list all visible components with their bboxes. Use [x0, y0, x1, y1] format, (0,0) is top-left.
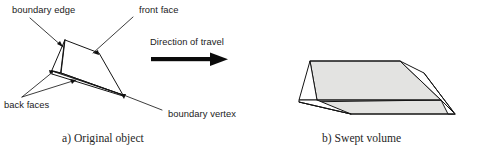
panel-a-original-object: boundary edge front face back faces boun…: [4, 4, 236, 145]
label-back-faces: back faces: [4, 99, 50, 110]
label-boundary-vertex: boundary vertex: [168, 108, 236, 119]
back-face-lower: [52, 71, 123, 95]
back-faces-leader-upper: [22, 71, 54, 97]
caption-panel-a: a) Original object: [62, 132, 145, 145]
label-direction-of-travel: Direction of travel: [150, 36, 224, 47]
back-faces-leader-lower: [22, 80, 76, 97]
boundary-vertex-arrowhead: [121, 94, 126, 99]
back-face-upper: [52, 40, 65, 73]
figure-svg: boundary edge front face back faces boun…: [0, 0, 489, 151]
direction-arrow: [151, 53, 228, 67]
front-face-leader: [93, 17, 133, 53]
arrow-shaft: [151, 57, 213, 61]
label-front-face: front face: [139, 4, 179, 15]
boundary-edge-arrowhead: [57, 41, 63, 47]
panel-b-swept-volume: b) Swept volume: [299, 61, 455, 145]
label-boundary-edge: boundary edge: [12, 4, 75, 15]
boundary-vertex-leader: [121, 94, 162, 110]
arrow-head: [210, 53, 228, 67]
boundary-edge-leader: [30, 18, 63, 47]
figure-container: boundary edge front face back faces boun…: [0, 0, 489, 151]
caption-panel-b: b) Swept volume: [322, 132, 401, 145]
